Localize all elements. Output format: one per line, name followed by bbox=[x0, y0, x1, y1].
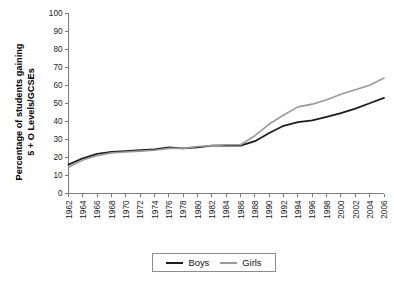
x-tick-label: 1998 bbox=[323, 200, 332, 219]
x-tick-label: 2000 bbox=[337, 200, 346, 219]
x-tick-label: 1984 bbox=[222, 200, 231, 219]
y-tick-label: 80 bbox=[53, 45, 63, 54]
y-tick-label: 90 bbox=[53, 27, 63, 36]
y-tick-label: 0 bbox=[58, 189, 63, 198]
x-tick-label: 1992 bbox=[280, 200, 289, 219]
x-tick-label: 2006 bbox=[380, 200, 389, 219]
chart-legend: Boys Girls bbox=[152, 253, 276, 272]
series-layer bbox=[69, 78, 385, 167]
x-tick-label: 1964 bbox=[79, 200, 88, 219]
y-tick-label: 20 bbox=[53, 153, 63, 162]
x-tick-label: 1980 bbox=[194, 200, 203, 219]
x-tick-label: 1970 bbox=[122, 200, 131, 219]
x-tick-label: 1966 bbox=[93, 200, 102, 219]
x-tick-label: 1982 bbox=[208, 200, 217, 219]
x-tick-label: 1962 bbox=[65, 200, 74, 219]
y-tick-label: 10 bbox=[53, 171, 63, 180]
y-axis-label-line1: Percentage of students gaining bbox=[14, 44, 24, 181]
x-tick-label: 1986 bbox=[237, 200, 246, 219]
y-tick-label: 50 bbox=[53, 99, 63, 108]
y-tick-label: 40 bbox=[53, 117, 63, 126]
x-tick-label: 1996 bbox=[308, 200, 317, 219]
x-axis-ticks: 1962196419661968197019721974197619781980… bbox=[65, 194, 390, 219]
legend-item-boys: Boys bbox=[166, 257, 209, 268]
x-tick-label: 1978 bbox=[179, 200, 188, 219]
chart-figure: Percentage of students gaining 5 + O Lev… bbox=[0, 0, 394, 283]
y-axis-label-group: Percentage of students gaining 5 + O Lev… bbox=[14, 44, 36, 181]
y-tick-label: 60 bbox=[53, 81, 63, 90]
x-tick-label: 2002 bbox=[352, 200, 361, 219]
y-tick-label: 100 bbox=[49, 9, 63, 18]
x-tick-label: 1972 bbox=[136, 200, 145, 219]
y-axis-ticks: 0102030405060708090100 bbox=[49, 9, 69, 199]
legend-label-boys: Boys bbox=[188, 257, 209, 268]
x-tick-label: 1974 bbox=[151, 200, 160, 219]
line-chart: Percentage of students gaining 5 + O Lev… bbox=[0, 0, 394, 283]
legend-label-girls: Girls bbox=[242, 257, 261, 268]
x-tick-label: 1990 bbox=[265, 200, 274, 219]
legend-swatch-girls-icon bbox=[220, 262, 237, 264]
y-tick-label: 30 bbox=[53, 135, 63, 144]
y-axis-label-line2: 5 + O Levels/GCSEs bbox=[26, 68, 36, 156]
x-tick-label: 1968 bbox=[108, 200, 117, 219]
legend-item-girls: Girls bbox=[220, 257, 261, 268]
x-tick-label: 2004 bbox=[366, 200, 375, 219]
series-line-boys bbox=[69, 98, 385, 165]
legend-swatch-boys-icon bbox=[166, 262, 183, 264]
x-tick-label: 1976 bbox=[165, 200, 174, 219]
x-tick-label: 1988 bbox=[251, 200, 260, 219]
y-tick-label: 70 bbox=[53, 63, 63, 72]
x-tick-label: 1994 bbox=[294, 200, 303, 219]
series-line-girls bbox=[69, 78, 385, 167]
